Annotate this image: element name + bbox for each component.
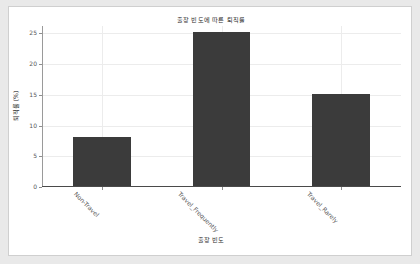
plot-area: 0510152025 Non-TravelTravel_FrequentlyTr… [42,26,401,187]
x-tick-mark [341,187,342,190]
x-tick-mark [222,187,223,190]
bar[interactable] [193,32,250,186]
chart-title: 출장 빈도에 따른 퇴직률 [9,15,413,24]
y-tick-label: 25 [29,30,37,36]
x-axis-label: 출장 빈도 [9,235,413,244]
x-axis-spine [42,186,401,187]
bar[interactable] [73,137,130,186]
y-tick-label: 10 [29,123,37,129]
y-tick-label: 5 [33,153,37,159]
x-tick-mark [102,187,103,190]
y-tick-mark [39,187,42,188]
y-axis-spine [42,26,43,187]
y-axis-label: 퇴직률 (%) [11,91,20,122]
x-tick-label: Travel_Rarely [306,191,339,224]
y-tick-label: 20 [29,61,37,67]
x-tick-label: Non-Travel [73,191,100,218]
y-tick-label: 15 [29,92,37,98]
x-tick-label: Travel_Frequently [177,191,220,234]
bar[interactable] [312,94,369,186]
chart-figure-panel: 출장 빈도에 따른 퇴직률 퇴직률 (%) 0510152025 Non-Tra… [8,6,412,256]
y-tick-label: 0 [33,184,37,190]
